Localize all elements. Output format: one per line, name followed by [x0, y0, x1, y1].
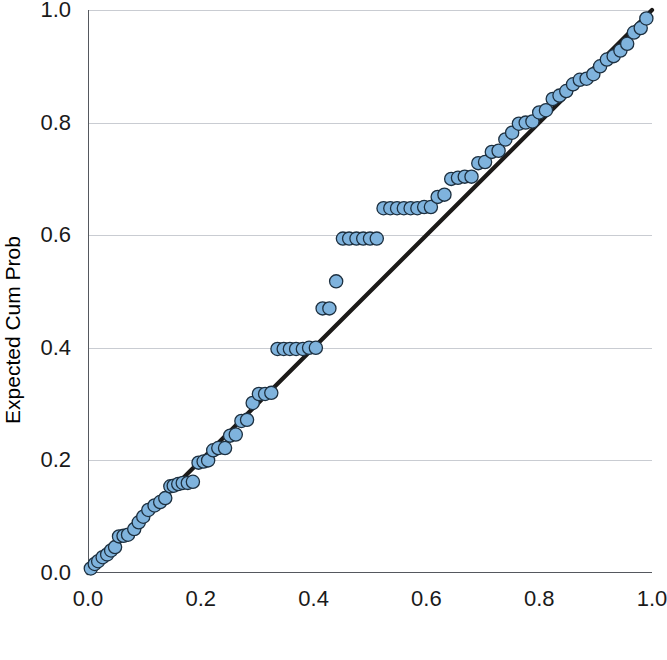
scatter-point: [240, 413, 253, 426]
y-axis-title: Expected Cum Prob: [0, 0, 26, 660]
x-tick-label: 0.0: [73, 586, 104, 612]
x-tick-label: 0.2: [186, 586, 217, 612]
scatter-point: [218, 441, 231, 454]
scatter-point: [640, 12, 653, 25]
scatter-point: [438, 188, 451, 201]
x-tick-label: 0.4: [298, 586, 329, 612]
plot-canvas: [88, 10, 652, 573]
y-tick-label: 1.0: [40, 0, 71, 23]
y-tick-label: 0.6: [40, 222, 71, 248]
pp-plot-figure: Expected Cum Prob Observed Cum Prob 0.00…: [0, 0, 667, 660]
scatter-point: [330, 275, 343, 288]
y-tick-label: 0.0: [40, 560, 71, 586]
y-tick-label: 0.8: [40, 110, 71, 136]
scatter-point: [229, 428, 242, 441]
scatter-point: [265, 386, 278, 399]
x-tick-label: 0.8: [524, 586, 555, 612]
y-tick-label: 0.4: [40, 335, 71, 361]
x-tick-label: 0.6: [411, 586, 442, 612]
scatter-point: [323, 302, 336, 315]
y-tick-label: 0.2: [40, 447, 71, 473]
scatter-point: [370, 232, 383, 245]
scatter-point: [186, 475, 199, 488]
x-tick-label: 1.0: [637, 586, 667, 612]
scatter-point: [309, 341, 322, 354]
plot-area: [88, 10, 652, 573]
scatter-point: [465, 170, 478, 183]
